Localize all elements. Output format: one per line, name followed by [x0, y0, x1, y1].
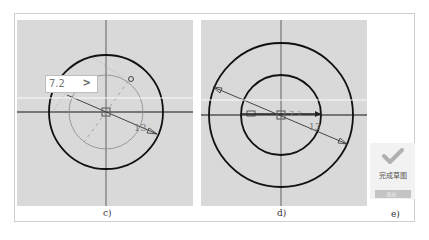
sketch-canvas-c[interactable]: 13 [17, 20, 193, 206]
caption-d: d) [277, 208, 286, 218]
caption-c: c) [103, 208, 112, 218]
dimension-input-value: 7.2 [49, 78, 65, 89]
check-icon[interactable] [382, 147, 404, 165]
dimension-input[interactable]: 7.2 > [45, 75, 98, 93]
inner-dimension-label: 7.2 [289, 109, 302, 118]
exit-button[interactable]: 退出 [375, 190, 411, 198]
dimension-label-13: 13 [134, 122, 147, 133]
caption-e: e) [391, 209, 400, 219]
sketch-canvas-d[interactable]: 7.2 13 [201, 20, 367, 206]
confirm-arrow-icon[interactable]: > [83, 77, 91, 88]
finish-sketch-panel[interactable]: 完成草图 退出 [370, 143, 415, 199]
point-marker [129, 77, 134, 82]
finish-sketch-label[interactable]: 完成草图 [371, 170, 415, 180]
sketch-drawing-c: 13 [17, 20, 193, 206]
outer-dimension-label: 13 [309, 122, 321, 132]
sketch-drawing-d: 7.2 13 [201, 20, 367, 206]
